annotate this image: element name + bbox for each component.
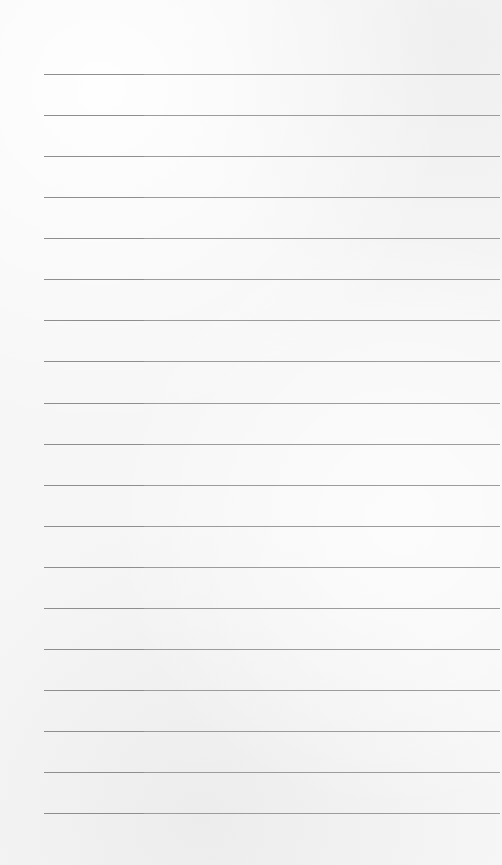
ruled-line	[44, 731, 500, 732]
ruled-line	[44, 361, 500, 362]
ruled-line	[44, 320, 500, 321]
ruled-line	[44, 608, 500, 609]
ruled-line	[44, 526, 500, 527]
ruled-line	[44, 197, 500, 198]
lined-paper-page	[0, 0, 502, 865]
ruled-line	[44, 156, 500, 157]
ruled-line	[44, 403, 500, 404]
ruled-line	[44, 813, 500, 814]
ruled-line	[44, 279, 500, 280]
ruled-line	[44, 690, 500, 691]
ruled-line	[44, 772, 500, 773]
ruled-line	[44, 74, 500, 75]
ruled-line	[44, 444, 500, 445]
ruled-line	[44, 649, 500, 650]
ruled-line	[44, 567, 500, 568]
ruled-line	[44, 115, 500, 116]
ruled-line	[44, 485, 500, 486]
ruled-line	[44, 238, 500, 239]
